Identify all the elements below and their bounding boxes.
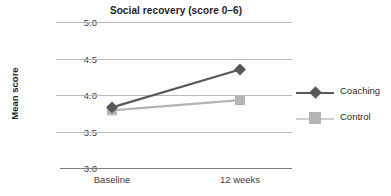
chart-title: Social recovery (score 0–6) (60, 5, 292, 16)
diamond-marker-icon (309, 86, 322, 99)
x-axis-line (60, 168, 292, 169)
data-point-coaching (234, 63, 246, 75)
y-axis-title: Mean score (9, 54, 20, 134)
data-point-control (235, 95, 245, 105)
data-layer (60, 22, 292, 168)
chart-figure: Social recovery (score 0–6) Mean score 5… (0, 0, 391, 196)
legend-item-coaching: Coaching (296, 80, 391, 106)
x-tick-label-12-weeks: 12 weeks (220, 174, 260, 185)
x-tick-label-baseline: Baseline (94, 174, 130, 185)
legend-label-control: Control (340, 111, 371, 122)
legend-label-coaching: Coaching (340, 85, 380, 96)
square-marker-icon (309, 112, 321, 124)
legend-item-control: Control (296, 106, 391, 132)
chart-legend: Coaching Control (296, 80, 391, 132)
